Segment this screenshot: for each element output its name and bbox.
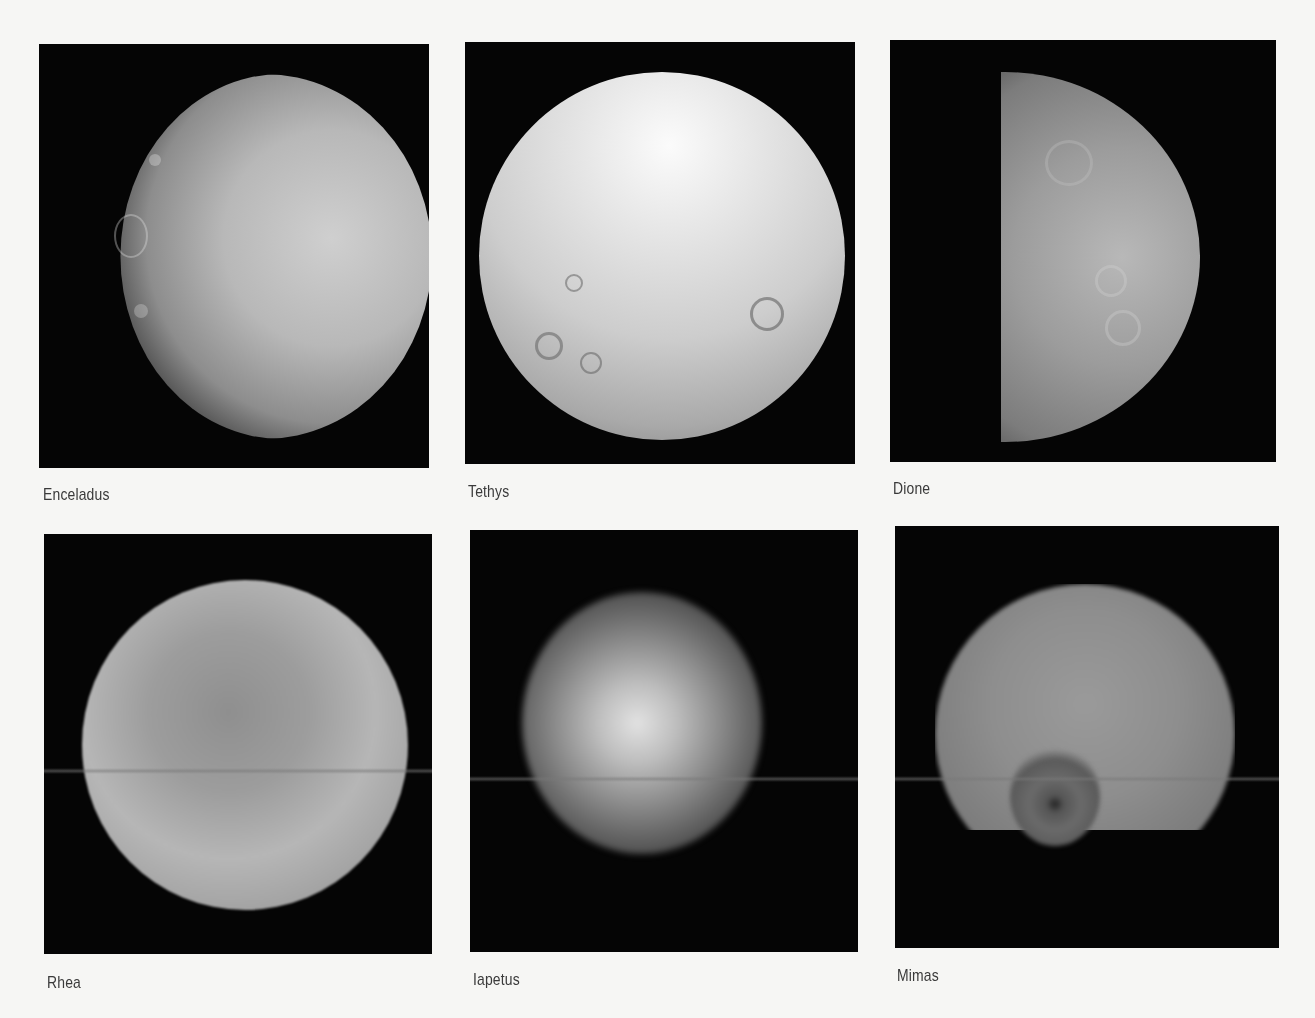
moon-dione	[890, 72, 1200, 442]
image-rhea	[44, 534, 432, 954]
image-dione	[890, 40, 1276, 462]
moon-rhea	[82, 580, 408, 910]
image-tethys	[465, 42, 855, 464]
moon-iapetus	[522, 592, 762, 854]
moon-tethys	[479, 72, 845, 440]
moon-enceladus	[97, 74, 429, 439]
caption-tethys: Tethys	[468, 482, 509, 502]
image-enceladus	[39, 44, 429, 468]
moon-mimas	[935, 584, 1235, 884]
caption-rhea: Rhea	[47, 973, 81, 993]
image-iapetus	[470, 530, 858, 952]
herschel-crater	[1010, 746, 1100, 846]
caption-dione: Dione	[893, 479, 930, 499]
image-mimas	[895, 526, 1279, 948]
caption-iapetus: Iapetus	[473, 970, 520, 990]
caption-mimas: Mimas	[897, 966, 939, 986]
caption-enceladus: Enceladus	[43, 485, 110, 505]
